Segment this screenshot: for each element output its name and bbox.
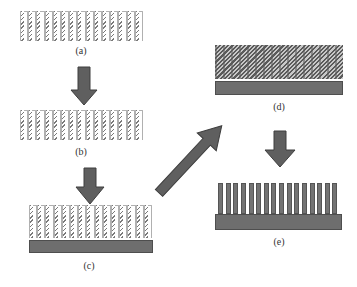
substrate-e xyxy=(215,214,342,230)
pillar xyxy=(226,183,231,214)
structure-b-comb-array xyxy=(20,110,143,140)
comb-strand xyxy=(128,11,131,41)
comb-strand xyxy=(79,205,82,238)
substrate-c xyxy=(29,240,153,253)
comb-strand xyxy=(95,110,98,140)
comb-strand xyxy=(63,205,66,238)
comb-strand xyxy=(104,205,107,238)
comb-strand xyxy=(62,110,65,140)
comb-strand xyxy=(71,205,74,238)
pillar xyxy=(302,183,307,214)
pillar xyxy=(241,183,246,214)
comb-strand xyxy=(87,110,90,140)
comb-strand xyxy=(46,110,49,140)
comb-strand xyxy=(136,110,139,140)
label-d: (d) xyxy=(273,101,285,112)
comb-strand xyxy=(119,110,122,140)
comb-strand xyxy=(21,11,24,41)
arrow-diagonal-icon-c-to-d xyxy=(150,120,225,200)
comb-strand xyxy=(29,11,32,41)
comb-strand xyxy=(62,11,65,41)
pillar xyxy=(256,183,261,214)
comb-strand xyxy=(136,11,139,41)
pillar xyxy=(325,183,330,214)
comb-strand xyxy=(96,205,99,238)
comb-strand xyxy=(128,205,131,238)
comb-strand xyxy=(70,11,73,41)
pillar xyxy=(287,183,292,214)
comb-strand xyxy=(78,11,81,41)
pillar xyxy=(218,183,223,214)
pillar xyxy=(317,183,322,214)
comb-strand xyxy=(119,11,122,41)
comb-strand xyxy=(111,110,114,140)
comb-strand xyxy=(111,11,114,41)
comb-strand xyxy=(128,110,131,140)
comb-strand xyxy=(70,110,73,140)
pillar xyxy=(264,183,269,214)
pillar xyxy=(271,183,276,214)
pillar xyxy=(294,183,299,214)
comb-strand xyxy=(78,110,81,140)
pillar xyxy=(332,183,337,214)
label-e: (e) xyxy=(273,236,284,247)
comb-strand xyxy=(38,205,41,238)
comb-strand xyxy=(30,205,33,238)
structure-c-comb-array xyxy=(29,205,152,238)
comb-strand xyxy=(137,205,140,238)
dense-array-texture xyxy=(215,45,343,79)
comb-strand xyxy=(103,11,106,41)
pillar xyxy=(279,183,284,214)
comb-strand xyxy=(37,11,40,41)
comb-strand xyxy=(29,110,32,140)
label-b: (b) xyxy=(75,146,87,157)
comb-strand xyxy=(46,205,49,238)
structure-e-pillar-array xyxy=(217,183,339,214)
comb-strand xyxy=(87,11,90,41)
comb-strand xyxy=(37,110,40,140)
pillar xyxy=(249,183,254,214)
comb-strand xyxy=(46,11,49,41)
arrow-down-icon-b-to-c xyxy=(75,167,105,205)
pillar xyxy=(310,183,315,214)
comb-strand xyxy=(95,11,98,41)
label-a: (a) xyxy=(75,45,86,56)
comb-strand xyxy=(103,110,106,140)
structure-d-dense-array xyxy=(215,45,343,79)
comb-strand xyxy=(145,205,148,238)
arrow-down-icon-a-to-b xyxy=(70,66,98,106)
comb-strand xyxy=(55,205,58,238)
structure-a-comb-array xyxy=(20,11,143,41)
arrow-down-icon-d-to-e xyxy=(264,130,296,168)
comb-strand xyxy=(120,205,123,238)
pillar xyxy=(233,183,238,214)
comb-strand xyxy=(54,11,57,41)
label-c: (c) xyxy=(83,260,94,271)
comb-strand xyxy=(87,205,90,238)
comb-strand xyxy=(54,110,57,140)
comb-strand xyxy=(21,110,24,140)
substrate-d xyxy=(215,81,343,95)
comb-strand xyxy=(112,205,115,238)
